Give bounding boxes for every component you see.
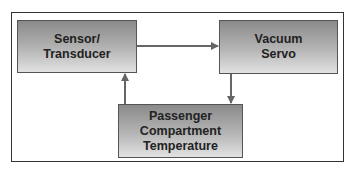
arrows-layer [0,0,353,172]
